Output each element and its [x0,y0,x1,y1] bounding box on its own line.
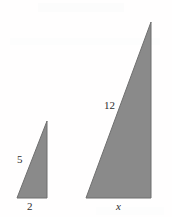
large-triangle-hypotenuse-label: 12 [104,99,115,111]
triangles-diagram [0,0,172,217]
large-triangle-shape [86,22,151,198]
small-triangle-hypotenuse-label: 5 [17,153,23,165]
large-triangle-base-label: x [116,200,121,212]
small-triangle-base-label: 2 [27,200,33,212]
geometry-figure: 5 2 12 x [0,0,172,217]
